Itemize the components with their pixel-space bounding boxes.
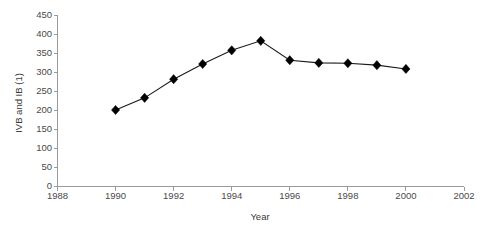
data-point-marker (141, 93, 149, 102)
y-axis-tick-marks (54, 16, 58, 187)
y-tick-label: 100 (36, 142, 52, 153)
data-point-marker (228, 46, 236, 55)
x-axis-tick-labels: 19881990199219941996199820002002 (47, 190, 475, 201)
data-point-marker (402, 64, 410, 73)
chart-canvas: 050100150200250300350400450 198819901992… (0, 0, 487, 233)
y-tick-label: 200 (36, 104, 52, 115)
data-point-marker (344, 59, 352, 68)
data-point-marker (170, 75, 178, 84)
x-tick-label: 2002 (453, 190, 474, 201)
x-tick-label: 1994 (221, 190, 242, 201)
data-point-marker (286, 56, 294, 65)
y-tick-label: 250 (36, 85, 52, 96)
data-markers (111, 36, 410, 114)
data-point-marker (111, 105, 119, 114)
data-point-marker (199, 59, 207, 68)
y-tick-label: 400 (36, 28, 52, 39)
data-point-marker (373, 61, 381, 70)
x-axis-title: Year (250, 211, 269, 222)
y-axis-title: IVB and IB (1) (13, 73, 24, 133)
data-point-marker (257, 36, 265, 45)
x-tick-label: 1988 (47, 190, 68, 201)
y-tick-label: 450 (36, 9, 52, 20)
x-tick-label: 2000 (395, 190, 416, 201)
y-tick-label: 150 (36, 123, 52, 134)
x-tick-label: 1996 (279, 190, 300, 201)
line-chart: 050100150200250300350400450 198819901992… (0, 0, 487, 233)
x-tick-label: 1992 (163, 190, 184, 201)
y-tick-label: 300 (36, 66, 52, 77)
y-tick-label: 50 (41, 161, 52, 172)
y-tick-label: 350 (36, 47, 52, 58)
x-tick-label: 1990 (105, 190, 126, 201)
data-point-marker (315, 58, 323, 67)
x-tick-label: 1998 (337, 190, 358, 201)
data-line (116, 41, 406, 110)
y-axis-tick-labels: 050100150200250300350400450 (36, 9, 52, 191)
